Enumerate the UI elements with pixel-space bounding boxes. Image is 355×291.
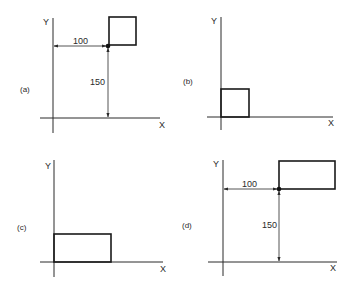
transformation-diagram: Y X (a) 100 150 Y X (b) Y X (c) Y X (d) [0,0,355,291]
reference-point-dot [106,44,111,49]
horizontal-dimension-label: 100 [242,179,257,189]
x-axis-label: X [330,263,336,273]
y-axis-label: Y [211,16,217,26]
square-shape [109,17,136,45]
y-axis-label: Y [43,17,49,27]
x-axis-label: X [328,118,334,128]
y-axis-label: Y [45,161,51,171]
x-axis-label: X [159,120,165,130]
panel-tag: (d) [182,221,192,230]
horizontal-dimension-label: 100 [73,36,88,46]
panel-a: Y X (a) 100 150 [20,17,165,133]
panel-tag: (c) [17,223,27,232]
vertical-dimension-label: 150 [262,220,277,230]
vertical-dimension-label: 150 [90,77,105,87]
panel-b: Y X (b) [183,16,334,130]
x-axis-label: X [160,264,166,274]
reference-point-dot [277,187,282,192]
panel-d: Y X (d) 100 150 [182,159,337,276]
panel-c: Y X (c) [17,160,166,277]
panel-tag: (a) [20,85,30,94]
rectangle-shape [54,234,111,262]
square-shape [221,89,249,117]
y-axis-label: Y [213,159,219,169]
panel-tag: (b) [183,77,193,86]
rectangle-shape [279,161,335,189]
